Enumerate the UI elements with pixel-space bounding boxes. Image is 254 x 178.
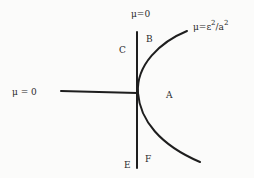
label-region-e: E: [124, 160, 131, 170]
label-region-c: C: [119, 45, 126, 55]
label-region-f: F: [145, 154, 151, 164]
diagram-svg: μ=0 B C μ = 0 A E F μ=ε2/a2: [0, 0, 254, 178]
diagram-canvas: μ=0 B C μ = 0 A E F μ=ε2/a2: [0, 0, 254, 178]
label-curve-base: μ=ε: [193, 22, 211, 32]
label-curve: μ=ε2/a2: [193, 19, 228, 32]
horizontal-line: [61, 91, 137, 93]
label-region-b: B: [146, 34, 153, 44]
label-region-a: A: [165, 90, 173, 100]
label-curve-exp2: 2: [224, 19, 228, 27]
label-mu-zero-left: μ = 0: [12, 87, 37, 97]
label-mu-zero-top: μ=0: [131, 9, 150, 19]
